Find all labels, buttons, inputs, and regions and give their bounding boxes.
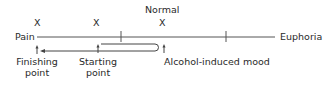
up-arrow-icon [36, 45, 39, 54]
up-arrow-icon [163, 44, 166, 53]
mood-trajectory-loop [42, 44, 159, 51]
alcohol-induced-mood-label: Alcohol-induced mood [164, 56, 270, 67]
scale-label-euphoria: Euphoria [280, 31, 322, 42]
up-arrow-icon [97, 44, 100, 53]
starting-point-line1: Starting [77, 56, 119, 67]
finishing-point-label: Finishing point [14, 56, 60, 78]
scale-label-pain: Pain [15, 31, 35, 42]
arrowhead-left-icon [40, 49, 45, 53]
starting-point-line2: point [77, 67, 119, 78]
marker-finishing: X [34, 17, 41, 28]
marker-starting: X [93, 17, 100, 28]
normal-label: Normal [145, 4, 179, 15]
starting-point-label: Starting point [77, 56, 119, 78]
marker-normal: X [159, 17, 166, 28]
finishing-point-line2: point [14, 67, 60, 78]
finishing-point-line1: Finishing [14, 56, 60, 67]
